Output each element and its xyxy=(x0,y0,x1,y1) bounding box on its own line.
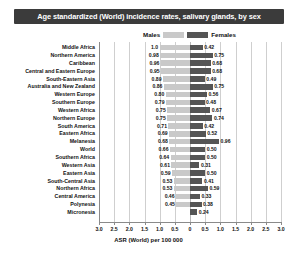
x-tick-mark xyxy=(236,222,237,225)
category-label: Central America xyxy=(55,193,95,200)
x-tick-mark xyxy=(175,222,176,225)
x-axis: 3.02.52.01.51.00.500.51.01.52.02.53.0 xyxy=(99,224,281,236)
category-label: Western Africa xyxy=(58,107,95,114)
table-row: Eastern Asia0.590.50 xyxy=(0,170,297,178)
category-label: South-Eastern Asia xyxy=(46,76,95,83)
bar-male xyxy=(174,186,190,192)
category-label: Northern America xyxy=(50,52,95,59)
value-label-female: 0.67 xyxy=(212,107,222,114)
bar-male xyxy=(174,178,190,184)
table-row: Central America0.460.33 xyxy=(0,193,297,201)
table-row: World0.660.50 xyxy=(0,146,297,154)
value-label-female: 0.56 xyxy=(208,91,218,98)
bar-female xyxy=(190,115,212,121)
category-label: Northern Africa xyxy=(56,185,95,192)
category-label: Western Asia xyxy=(62,162,95,169)
x-tick-label: 1.0 xyxy=(217,226,224,232)
table-row: Southern Europe0.790.48 xyxy=(0,99,297,107)
bar-female xyxy=(190,107,210,113)
x-tick-label: 1.0 xyxy=(156,226,163,232)
bar-rows: Middle Africa1.00.42Northern America0.98… xyxy=(0,44,297,217)
table-row: Eastern Africa0.690.52 xyxy=(0,130,297,138)
bar-female xyxy=(190,170,205,176)
bar-female xyxy=(190,100,205,106)
bar-female xyxy=(190,194,200,200)
bar-male xyxy=(160,53,190,59)
bar-male xyxy=(166,100,190,106)
legend-label-males: Males xyxy=(143,31,160,38)
value-label-male: 0.69 xyxy=(158,130,168,137)
x-tick-mark xyxy=(129,222,130,225)
bar-female xyxy=(190,155,205,161)
value-label-male: 0.66 xyxy=(159,146,169,153)
bar-female xyxy=(190,186,208,192)
x-tick-label: 3.0 xyxy=(277,226,284,232)
value-label-female: 0.75 xyxy=(214,52,224,59)
value-label-female: 0.41 xyxy=(204,178,214,185)
table-row: South America0.710.42 xyxy=(0,122,297,130)
x-tick-label: 0.5 xyxy=(171,226,178,232)
value-label-male: 0.46 xyxy=(165,193,175,200)
chart-legend: Males Females xyxy=(143,30,236,39)
x-tick-mark xyxy=(220,222,221,225)
category-label: Southern Africa xyxy=(55,154,95,161)
bar-male xyxy=(163,76,190,82)
category-label: Micronesia xyxy=(67,209,95,216)
table-row: Western Europe0.800.56 xyxy=(0,91,297,99)
bar-female xyxy=(190,84,213,90)
value-label-female: 0.68 xyxy=(212,60,222,67)
value-label-female: 0.42 xyxy=(204,44,214,51)
bar-female xyxy=(190,131,206,137)
x-tick-mark xyxy=(160,222,161,225)
x-tick-mark xyxy=(145,222,146,225)
bar-female xyxy=(190,139,219,145)
x-tick-label: 2.5 xyxy=(262,226,269,232)
value-label-female: 0.96 xyxy=(221,138,231,145)
value-label-female: 0.31 xyxy=(201,162,211,169)
bar-female xyxy=(190,92,207,98)
category-label: Northern Europe xyxy=(53,115,95,122)
table-row: Central and Eastern Europe0.950.68 xyxy=(0,68,297,76)
bar-female xyxy=(190,68,211,74)
x-tick-mark xyxy=(266,222,267,225)
category-label: Eastern Africa xyxy=(59,130,95,137)
x-tick-mark xyxy=(99,222,100,225)
chart-title-bar: Age standardized (World) incidence rates… xyxy=(14,9,284,24)
value-label-male: 0.79 xyxy=(155,99,165,106)
table-row: Western Africa0.750.67 xyxy=(0,107,297,115)
value-label-female: 0.38 xyxy=(203,201,213,208)
bar-female xyxy=(190,123,203,129)
bar-female xyxy=(190,76,205,82)
bar-male xyxy=(176,194,190,200)
table-row: Polynesia0.450.38 xyxy=(0,201,297,209)
x-tick-mark xyxy=(114,222,115,225)
x-tick-label: 0.5 xyxy=(202,226,209,232)
table-row: Australia and New Zealand0.860.75 xyxy=(0,83,297,91)
table-row: Northern America0.980.75 xyxy=(0,52,297,60)
value-label-male: 0.64 xyxy=(159,154,169,161)
value-label-male: 0.95 xyxy=(150,68,160,75)
bar-female xyxy=(190,178,202,184)
value-label-male: 0.53 xyxy=(163,185,173,192)
bar-male xyxy=(164,84,190,90)
value-label-male: 1.0 xyxy=(151,44,158,51)
category-label: Caribbean xyxy=(69,60,95,67)
category-label: South-Central Asia xyxy=(48,178,95,185)
category-label: Australia and New Zealand xyxy=(28,83,95,90)
x-tick-label: 2.5 xyxy=(111,226,118,232)
bar-female xyxy=(190,45,203,51)
value-label-male: 0.53 xyxy=(163,178,173,185)
chart-figure: Age standardized (World) incidence rates… xyxy=(0,0,297,263)
x-tick-label: 1.5 xyxy=(141,226,148,232)
value-label-male: 0.75 xyxy=(156,107,166,114)
page-title: Age standardized (World) incidence rates… xyxy=(37,12,260,21)
bar-female xyxy=(190,53,213,59)
bar-male xyxy=(172,170,190,176)
bar-female xyxy=(190,162,199,168)
value-label-male: 0.75 xyxy=(156,115,166,122)
category-label: Eastern Asia xyxy=(63,170,95,177)
legend-label-females: Females xyxy=(211,31,236,38)
category-label: World xyxy=(80,146,95,153)
category-label: Melanesia xyxy=(70,138,95,145)
value-label-male: 0.45 xyxy=(165,201,175,208)
